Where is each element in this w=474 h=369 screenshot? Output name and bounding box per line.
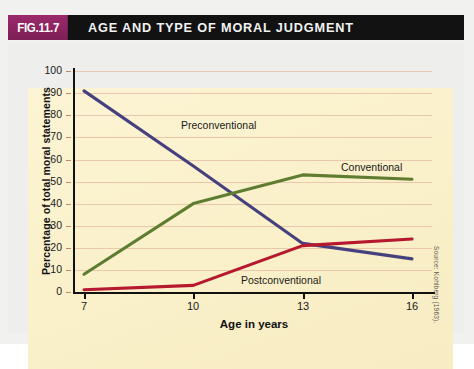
figure-plate xyxy=(8,43,464,333)
figure-title: AGE AND TYPE OF MORAL JUDGMENT xyxy=(73,15,354,40)
figure-number-badge: FIG.11.7 xyxy=(8,15,67,40)
source-credit: Source: Kohlberg (1963). xyxy=(433,246,440,366)
figure-header: FIG.11.7 AGE AND TYPE OF MORAL JUDGMENT xyxy=(8,15,464,40)
chart-canvas xyxy=(28,88,453,369)
